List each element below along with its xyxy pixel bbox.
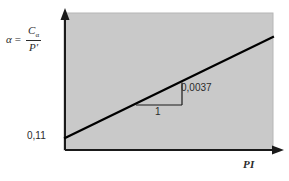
slope-rise-label: 0,0037 (181, 83, 212, 93)
y-axis-equals-symbol: = (15, 34, 21, 45)
x-axis-arrow-icon (272, 146, 284, 155)
y-axis-label: α = Cα P′ (6, 20, 62, 58)
x-axis-label: PI (243, 158, 255, 170)
numerator-base: C (28, 24, 36, 36)
numerator-subscript: α (36, 31, 40, 39)
y-axis-fraction: Cα P′ (26, 24, 41, 54)
denominator-prime: ′ (36, 41, 39, 53)
y-axis-fraction-denominator: P′ (27, 41, 41, 54)
y-axis-alpha-symbol: α (6, 34, 12, 45)
slope-run-label: 1 (155, 107, 161, 117)
y-axis-fraction-numerator: Cα (26, 24, 41, 39)
plot-area-background (64, 13, 273, 150)
y-intercept-label: 0,11 (27, 131, 46, 141)
denominator-base: P (29, 41, 36, 53)
figure-root: α = Cα P′ 0,11 0,0037 1 PI (0, 0, 289, 181)
